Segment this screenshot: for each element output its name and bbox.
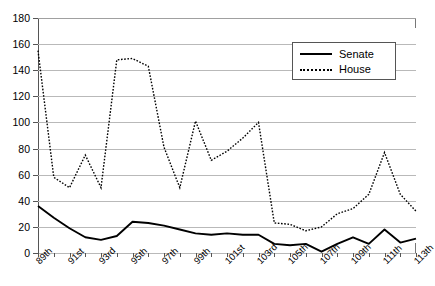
chart-legend: Senate House [292, 42, 396, 80]
legend-label-house: House [339, 64, 371, 75]
senate-series-line [38, 206, 416, 252]
legend-swatch-senate-icon [300, 49, 332, 59]
legend-label-senate: Senate [339, 49, 374, 60]
legend-item-senate: Senate [300, 47, 374, 61]
legend-item-house: House [300, 62, 371, 76]
legend-swatch-house-icon [300, 64, 332, 74]
